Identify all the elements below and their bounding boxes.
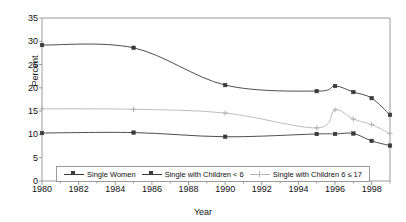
- legend-square-marker-icon: [64, 170, 84, 178]
- x-tick-label: 1980: [32, 184, 52, 194]
- legend-item[interactable]: Single with Children 6 ≤ 17: [250, 170, 362, 179]
- x-tick-label: 1990: [215, 184, 235, 194]
- series-line: [42, 109, 390, 134]
- x-tick-label: 1982: [69, 184, 89, 194]
- chart-legend: Single WomenSingle with Children < 6Sing…: [56, 166, 370, 182]
- x-tick-label: 1992: [252, 184, 272, 194]
- data-point-marker: [333, 132, 337, 136]
- data-point-marker: [388, 113, 392, 117]
- data-point-marker: [370, 96, 374, 100]
- legend-item[interactable]: Single Women: [64, 170, 136, 179]
- data-point-marker: [352, 90, 356, 94]
- x-tick-label: 1984: [105, 184, 125, 194]
- data-point-marker: [132, 46, 136, 50]
- data-point-marker: [40, 43, 44, 47]
- data-point-marker: [370, 139, 374, 143]
- line-chart: Percent 05101520253035 19801982198419861…: [0, 0, 406, 222]
- x-tick-label: 1994: [288, 184, 308, 194]
- x-tick-label: 1986: [142, 184, 162, 194]
- data-point-marker: [223, 83, 227, 87]
- data-point-marker: [132, 131, 136, 135]
- series-1: [40, 43, 392, 116]
- x-tick-label: 1996: [325, 184, 345, 194]
- legend-label: Single Women: [87, 170, 136, 179]
- legend-label: Single with Children 6 ≤ 17: [273, 170, 362, 179]
- legend-item[interactable]: Single with Children < 6: [142, 170, 244, 179]
- x-tick-label: 1988: [179, 184, 199, 194]
- data-point-marker: [388, 144, 392, 148]
- x-tick-label: 1998: [362, 184, 382, 194]
- x-axis-tick-labels: 1980198219841986198819901992199419961998: [0, 184, 406, 198]
- series-line: [42, 132, 390, 145]
- data-point-marker: [315, 132, 319, 136]
- data-point-marker: [352, 132, 356, 136]
- series-line: [42, 44, 390, 115]
- legend-square-marker-icon: [142, 170, 162, 178]
- x-axis-title: Year: [0, 207, 406, 217]
- legend-plus-marker-icon: [250, 170, 270, 178]
- data-point-marker: [223, 135, 227, 139]
- plot-frame: [42, 18, 390, 181]
- series-3: [39, 106, 392, 136]
- legend-label: Single with Children < 6: [165, 170, 244, 179]
- series-2: [40, 131, 392, 148]
- data-point-marker: [315, 89, 319, 93]
- data-point-marker: [40, 131, 44, 135]
- data-point-marker: [333, 84, 337, 88]
